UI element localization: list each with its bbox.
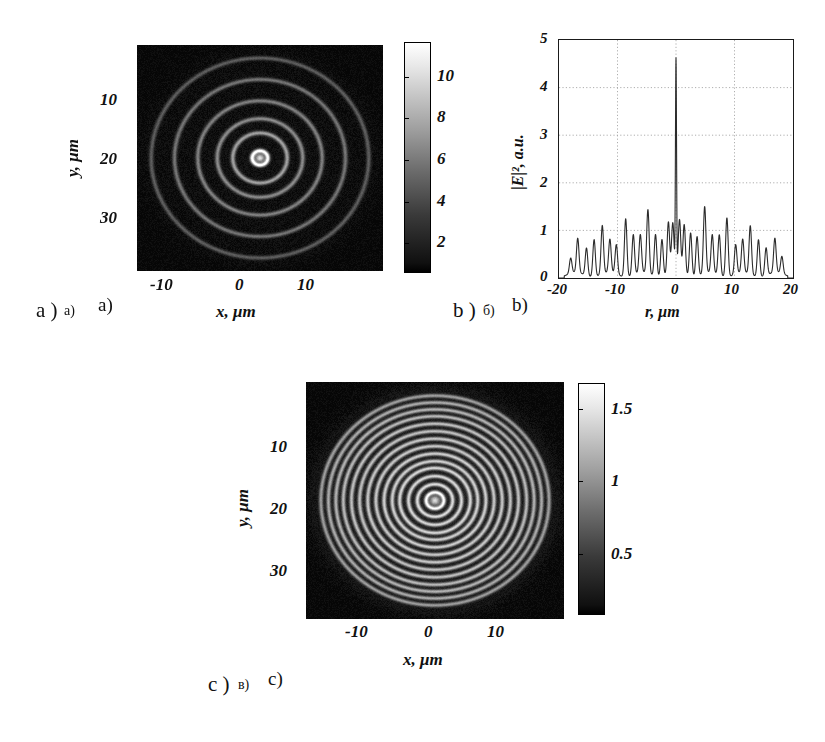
panel-a-ytick-10: 10 — [100, 90, 117, 110]
panel-b-plot-svg — [559, 40, 793, 278]
panel-a-cbar-tick-4 — [405, 202, 409, 203]
panel-a-cbar-label-2: 2 — [437, 232, 446, 252]
panel-b-xlabel: r, μm — [645, 303, 680, 321]
panel-a-ylabel: y, μm — [63, 123, 83, 193]
panel-c-heatmap — [306, 382, 564, 619]
panel-c-ytick-10: 10 — [270, 437, 287, 457]
panel-c-cbar-label-0p5: 0.5 — [611, 544, 632, 564]
panel-c-colorbar — [578, 383, 605, 615]
panel-a-cbar-tick-8 — [405, 118, 409, 119]
panel-a-cbar-label-8: 8 — [437, 107, 446, 127]
panel-c-xtick-0: 0 — [424, 622, 433, 642]
panel-a-heatmap — [137, 45, 383, 271]
panel-a-caption-latin: a ) — [36, 298, 58, 323]
panel-b-ytick-1: 1 — [540, 222, 548, 239]
panel-a-cbar-tick-2 — [405, 243, 409, 244]
panel-c-cbar-tick-1p5 — [579, 409, 583, 410]
panel-a-cbar-label-10: 10 — [437, 66, 454, 86]
panel-c-cbar-tick-0p5 — [579, 554, 583, 555]
panel-a-xtick-0: 0 — [235, 275, 244, 295]
panel-b-plot — [558, 39, 794, 279]
panel-c-cbar-label-1: 1 — [611, 471, 620, 491]
panel-a-xlabel: x, μm — [216, 302, 256, 322]
panel-c-caption-latin: c ) — [208, 672, 230, 697]
panel-a-ytick-20: 20 — [100, 149, 117, 169]
panel-a-cbar-tick-6 — [405, 160, 409, 161]
panel-b-caption-cyrillic: б) — [483, 303, 495, 319]
panel-b-ytick-3: 3 — [540, 126, 548, 143]
panel-a-ytick-30: 30 — [100, 208, 117, 228]
panel-b-caption-latin: b ) — [453, 298, 476, 323]
panel-c-image — [306, 382, 564, 619]
panel-a-image — [137, 45, 383, 271]
panel-c-ytick-30: 30 — [270, 561, 287, 581]
panel-b-xtick-neg20: -20 — [547, 281, 567, 298]
panel-c-ylabel: y, μm — [233, 473, 253, 543]
panel-b-xtick-0: 0 — [671, 281, 679, 298]
panel-b-xtick-20: 20 — [783, 281, 798, 298]
panel-c-cbar-label-1p5: 1.5 — [611, 399, 632, 419]
panel-b-caption-latin-2: b) — [512, 294, 528, 316]
panel-c-caption-cyrillic: в) — [238, 677, 249, 693]
panel-a-cbar-tick-10 — [405, 77, 409, 78]
panel-c-xtick-neg10: -10 — [345, 622, 368, 642]
panel-c-xlabel: x, μm — [403, 650, 443, 670]
panel-b-xtick-neg10: -10 — [605, 281, 625, 298]
panel-c-caption-latin-2: c) — [268, 668, 283, 690]
panel-c-ytick-20: 20 — [270, 499, 287, 519]
panel-b-ylabel: |E|², a.u. — [509, 122, 527, 202]
panel-c-xtick-10: 10 — [487, 622, 504, 642]
panel-a-xtick-10: 10 — [297, 275, 314, 295]
panel-a-cbar-label-4: 4 — [437, 191, 446, 211]
panel-c-colorbar-gradient — [579, 384, 604, 614]
panel-a-caption-cyrillic: а) — [64, 303, 75, 319]
panel-a-xtick-neg10: -10 — [150, 275, 173, 295]
panel-a-colorbar — [404, 42, 431, 273]
panel-b-xtick-10: 10 — [724, 281, 739, 298]
panel-b-ytick-2: 2 — [540, 174, 548, 191]
panel-a-cbar-label-6: 6 — [437, 149, 446, 169]
panel-a-caption-latin-2: a) — [98, 294, 113, 316]
panel-c-cbar-tick-1 — [579, 481, 583, 482]
panel-b-ytick-5: 5 — [540, 30, 548, 47]
panel-b-ytick-4: 4 — [540, 78, 548, 95]
